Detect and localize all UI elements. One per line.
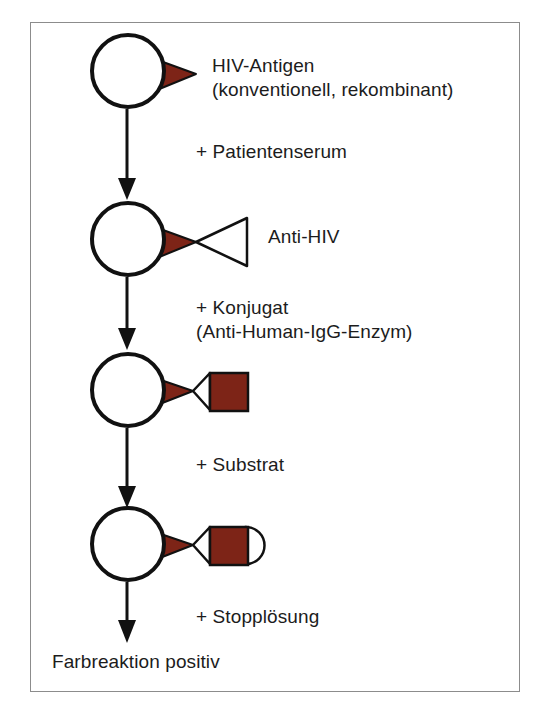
- reagent-1-label: + Patientenserum: [196, 140, 347, 164]
- reagent-2-line2: (Anti-Human-IgG-Enzym): [196, 320, 413, 344]
- result-label-text: Farbreaktion positiv: [52, 651, 220, 672]
- solid-phase-circle: [92, 354, 164, 426]
- arrow-1: [118, 109, 136, 200]
- step-1-label: HIV-Antigen (konventionell, rekombinant): [212, 54, 453, 103]
- solid-phase-circle: [92, 508, 164, 580]
- antibody-triangle: [196, 218, 247, 266]
- step-1-label-line2: (konventionell, rekombinant): [212, 78, 453, 102]
- reagent-4-label: + Stopplösung: [196, 605, 319, 629]
- arrow-4: [118, 582, 136, 643]
- step-2-group: [92, 203, 247, 275]
- antibody-triangle: [193, 527, 210, 564]
- step-2-label-line1: Anti-HIV: [268, 226, 340, 247]
- antibody-triangle: [193, 373, 210, 410]
- step-3-group: [92, 354, 248, 426]
- reagent-4-line1: + Stopplösung: [196, 606, 319, 627]
- solid-phase-circle: [92, 203, 164, 275]
- result-label: Farbreaktion positiv: [52, 650, 220, 674]
- reagent-1-line1: + Patientenserum: [196, 141, 347, 162]
- arrow-3: [118, 428, 136, 508]
- reagent-3-label: + Substrat: [196, 453, 284, 477]
- figure-root: HIV-Antigen (konventionell, rekombinant)…: [0, 0, 550, 715]
- reagent-3-line1: + Substrat: [196, 454, 284, 475]
- step-4-group: [92, 508, 265, 580]
- enzyme-square: [210, 527, 248, 565]
- step-1-label-line1: HIV-Antigen: [212, 55, 315, 76]
- reagent-2-label: + Konjugat (Anti-Human-IgG-Enzym): [196, 296, 413, 345]
- step-1-group: [92, 35, 196, 107]
- enzyme-square: [210, 373, 248, 411]
- arrow-2: [118, 277, 136, 350]
- step-2-label: Anti-HIV: [268, 225, 340, 249]
- solid-phase-circle: [92, 35, 164, 107]
- reagent-2-line1: + Konjugat: [196, 297, 288, 318]
